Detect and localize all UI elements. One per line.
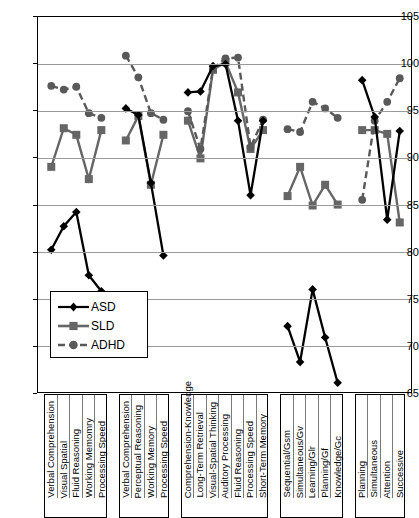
x-category-label: Attention xyxy=(382,459,392,499)
x-category: Comprehension-Knowledge xyxy=(182,395,195,498)
data-point xyxy=(85,175,93,183)
x-axis-labels: Verbal ComprehensionVisual SpatialFluid … xyxy=(37,394,412,518)
legend-item-asd: ASD xyxy=(57,297,143,316)
data-point xyxy=(395,127,404,136)
x-category-label: Knowledge/Gc xyxy=(333,434,343,498)
series-line-sld xyxy=(288,167,338,206)
y-tick-label: 90 xyxy=(389,152,419,163)
x-category-label: Working Memory xyxy=(146,424,156,498)
x-category-label: Planning xyxy=(357,459,367,498)
legend-label-sld: SLD xyxy=(91,319,114,333)
x-category-label: Verbal Comprehension xyxy=(121,399,131,498)
data-point xyxy=(309,98,317,106)
data-point xyxy=(122,52,130,60)
gridline xyxy=(38,158,411,159)
legend-marker-asd xyxy=(57,300,90,314)
data-point xyxy=(396,218,404,226)
x-category-label: Short-Term Memory xyxy=(258,412,268,498)
x-category: Processing Speed xyxy=(95,395,108,498)
x-category-label: Sequential/Gsm xyxy=(282,428,292,498)
y-tick-mark xyxy=(33,299,37,300)
data-point xyxy=(60,124,68,132)
y-tick-label: 95 xyxy=(389,105,419,116)
legend-marker-adhd xyxy=(57,338,90,352)
data-point xyxy=(396,74,404,82)
series-line-asd xyxy=(288,289,338,382)
x-category: Auditory Processing xyxy=(219,395,232,498)
data-point xyxy=(160,116,168,124)
data-point xyxy=(234,116,243,125)
x-category-label: Processing Speed xyxy=(97,419,107,498)
data-point xyxy=(72,83,80,91)
data-point xyxy=(333,378,342,387)
x-group-tail xyxy=(280,497,343,518)
data-point xyxy=(296,128,304,136)
legend-marker-sld xyxy=(57,319,90,333)
legend-label-asd: ASD xyxy=(91,300,116,314)
x-category: Perceptual Reasoning xyxy=(132,395,145,498)
data-point xyxy=(97,126,105,134)
x-category: Fluid Reasoning xyxy=(232,395,245,498)
x-category: Visual Spatial xyxy=(58,395,71,498)
data-point xyxy=(234,88,242,96)
y-tick-mark xyxy=(33,110,37,111)
chart-legend: ASD SLD ADHD xyxy=(50,291,148,358)
data-point xyxy=(234,54,242,62)
x-group-box: Verbal ComprehensionPerceptual Reasoning… xyxy=(119,394,169,497)
x-category-label: Learning/Glr xyxy=(307,444,317,498)
data-point xyxy=(321,181,329,189)
x-category: Simultaneous xyxy=(368,395,381,498)
y-tick-mark xyxy=(33,205,37,206)
x-category-label: Processing Speed xyxy=(159,419,169,498)
y-tick-label: 80 xyxy=(389,246,419,257)
x-axis-group-wj: Comprehension-KnowledgeLong-Term Retriev… xyxy=(181,394,269,518)
data-point xyxy=(358,126,366,134)
data-point xyxy=(60,86,68,94)
x-category: Attention xyxy=(381,395,394,498)
x-category: Processing Speed xyxy=(157,395,170,498)
y-tick-mark xyxy=(33,16,37,17)
data-point xyxy=(296,163,304,171)
x-category: Verbal Comprehension xyxy=(45,395,58,498)
data-point xyxy=(197,145,205,153)
gridline xyxy=(38,252,411,253)
x-category: Processing Speed xyxy=(244,395,257,498)
x-category: Simultaneous/Gv xyxy=(294,395,307,498)
data-point xyxy=(283,322,292,331)
gridline xyxy=(38,64,411,65)
gridline xyxy=(38,111,411,112)
x-group-box: Sequential/GsmSimultaneous/GvLearning/Gl… xyxy=(280,394,343,497)
data-point xyxy=(97,114,105,122)
y-tick-label: 70 xyxy=(389,340,419,351)
x-category: Learning/Glr xyxy=(306,395,319,498)
data-point xyxy=(284,192,292,200)
x-category: Verbal Comprehension xyxy=(120,395,133,498)
chart-page: 65707580859095100105 ASD SLD xyxy=(0,0,419,518)
x-category-label: Auditory Processing xyxy=(220,412,230,498)
data-point xyxy=(358,196,366,204)
data-point xyxy=(358,76,367,85)
x-group-tail xyxy=(119,497,169,518)
data-point xyxy=(72,131,80,139)
x-category-label: Verbal Comprehension xyxy=(46,399,56,498)
y-tick-label: 105 xyxy=(389,11,419,22)
x-category-label: Processing Speed xyxy=(245,419,255,498)
x-group-box: Comprehension-KnowledgeLong-Term Retriev… xyxy=(181,394,269,497)
data-point xyxy=(296,358,305,367)
x-category-label: Perceptual Reasoning xyxy=(133,403,143,498)
x-category-label: Fluid Reasoning xyxy=(233,427,243,498)
x-group-tail xyxy=(181,497,269,518)
data-point xyxy=(284,125,292,133)
series-line-asd xyxy=(188,64,263,195)
x-category: Working Memory xyxy=(145,395,158,498)
x-category-label: Fluid Reasoning xyxy=(71,427,81,498)
data-point xyxy=(47,163,55,171)
x-category: Long-Term Retrieval xyxy=(194,395,207,498)
x-category: Sequential/Gsm xyxy=(281,395,294,498)
x-category: Knowledge/Gc xyxy=(331,395,344,498)
x-category-label: Visual Spatial xyxy=(59,439,69,498)
y-tick-label: 100 xyxy=(389,58,419,69)
x-axis-group-wisc-v: Verbal ComprehensionVisual SpatialFluid … xyxy=(44,394,107,518)
y-tick-mark xyxy=(33,346,37,347)
legend-item-adhd: ADHD xyxy=(57,335,143,354)
